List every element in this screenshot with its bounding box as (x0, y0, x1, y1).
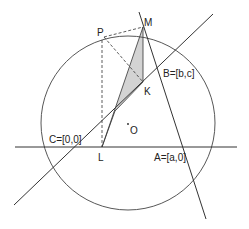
label-B: B=[b,c] (163, 68, 195, 79)
label-L: L (98, 152, 104, 163)
circumcircle (41, 36, 215, 210)
line-CB (14, 14, 213, 205)
dash-PM (104, 27, 143, 37)
label-K: K (144, 86, 151, 97)
line-MA (139, 12, 206, 219)
label-P: P (97, 27, 104, 38)
label-C: C=[0,0] (49, 134, 82, 145)
label-M: M (144, 17, 152, 28)
label-A: A=[a,0] (154, 152, 186, 163)
geometry-diagram: M P K L O B=[b,c] C=[0,0] A=[a,0] (0, 0, 249, 229)
center-dot (127, 123, 129, 125)
label-O: O (130, 125, 138, 136)
